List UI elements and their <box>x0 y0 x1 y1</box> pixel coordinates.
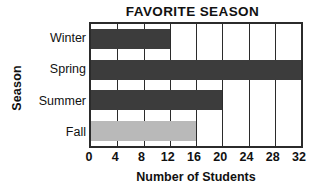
bar-spring <box>91 60 301 80</box>
x-tick-label-32: 32 <box>292 150 306 164</box>
x-tick-label-8: 8 <box>138 150 145 164</box>
category-label-list: Winter Spring Summer Fall <box>28 22 89 148</box>
bars-layer <box>91 24 301 146</box>
x-tick-label-16: 16 <box>187 150 201 164</box>
y-axis-title: Season <box>6 52 28 124</box>
bar-row-summer <box>91 85 301 116</box>
bar-winter <box>91 29 170 49</box>
category-label-fall: Fall <box>28 117 89 149</box>
bar-row-fall <box>91 116 301 147</box>
chart-title: FAVORITE SEASON <box>0 4 325 19</box>
x-tick-label-4: 4 <box>112 150 119 164</box>
chart-screenshot: FAVORITE SEASON Season Winter Spring Sum… <box>0 0 325 194</box>
bar-row-winter <box>91 24 301 55</box>
category-label-summer: Summer <box>28 85 89 117</box>
y-axis-title-text: Season <box>10 65 24 111</box>
x-tick-label-24: 24 <box>240 150 254 164</box>
x-tick-label-28: 28 <box>266 150 280 164</box>
x-axis-title: Number of Students <box>89 170 303 184</box>
x-tick-label-12: 12 <box>161 150 175 164</box>
bar-summer <box>91 90 222 110</box>
x-axis-tick-labels: 048121620242832 <box>89 150 303 166</box>
x-tick-label-0: 0 <box>86 150 93 164</box>
x-tick-label-20: 20 <box>213 150 227 164</box>
category-label-winter: Winter <box>28 22 89 54</box>
category-label-spring: Spring <box>28 54 89 86</box>
bar-row-spring <box>91 55 301 86</box>
plot-area <box>89 22 303 148</box>
bar-fall <box>91 121 196 141</box>
